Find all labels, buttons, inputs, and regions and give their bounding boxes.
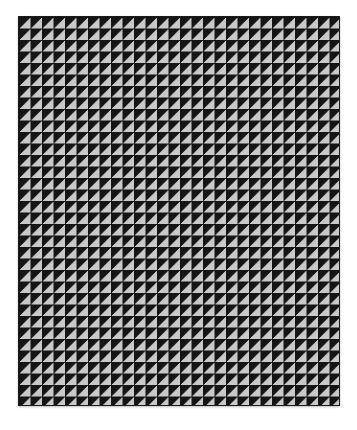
triangle-pattern-blanket: half-square triangle pattern blanket [18,16,340,406]
